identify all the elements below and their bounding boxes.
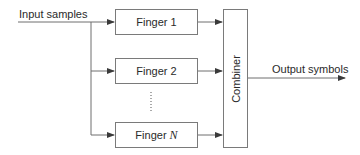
combiner-label: Combiner	[230, 55, 242, 103]
input-label: Input samples	[19, 9, 87, 20]
finger-1-box: Finger 1	[115, 9, 198, 35]
finger-2-box: Finger 2	[115, 58, 198, 84]
output-label: Output symbols	[272, 64, 348, 75]
finger-n-box: Finger N	[115, 122, 198, 148]
finger-1-label: Finger 1	[136, 16, 176, 28]
combiner-box: Combiner	[223, 9, 248, 148]
finger-n-label: Finger N	[135, 128, 177, 143]
finger-2-label: Finger 2	[136, 65, 176, 77]
